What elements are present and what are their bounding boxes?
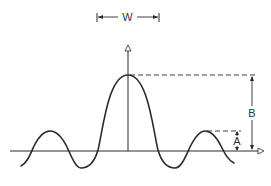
waveform-diagram: W B A: [0, 0, 271, 186]
arrow-left-icon: [98, 15, 103, 19]
horizontal-axis: [10, 148, 264, 154]
axis-arrow-right-icon: [258, 148, 264, 154]
w-dimension: W: [97, 11, 159, 23]
arrow-up-icon: [250, 76, 254, 81]
arrow-right-icon: [153, 15, 158, 19]
w-label: W: [122, 11, 133, 23]
arrow-down-icon: [235, 147, 239, 151]
b-label: B: [248, 107, 255, 119]
axis-arrow-up-icon: [125, 45, 131, 51]
a-label: A: [233, 135, 241, 147]
vertical-axis: [125, 45, 131, 151]
arrow-down-icon: [250, 145, 254, 150]
